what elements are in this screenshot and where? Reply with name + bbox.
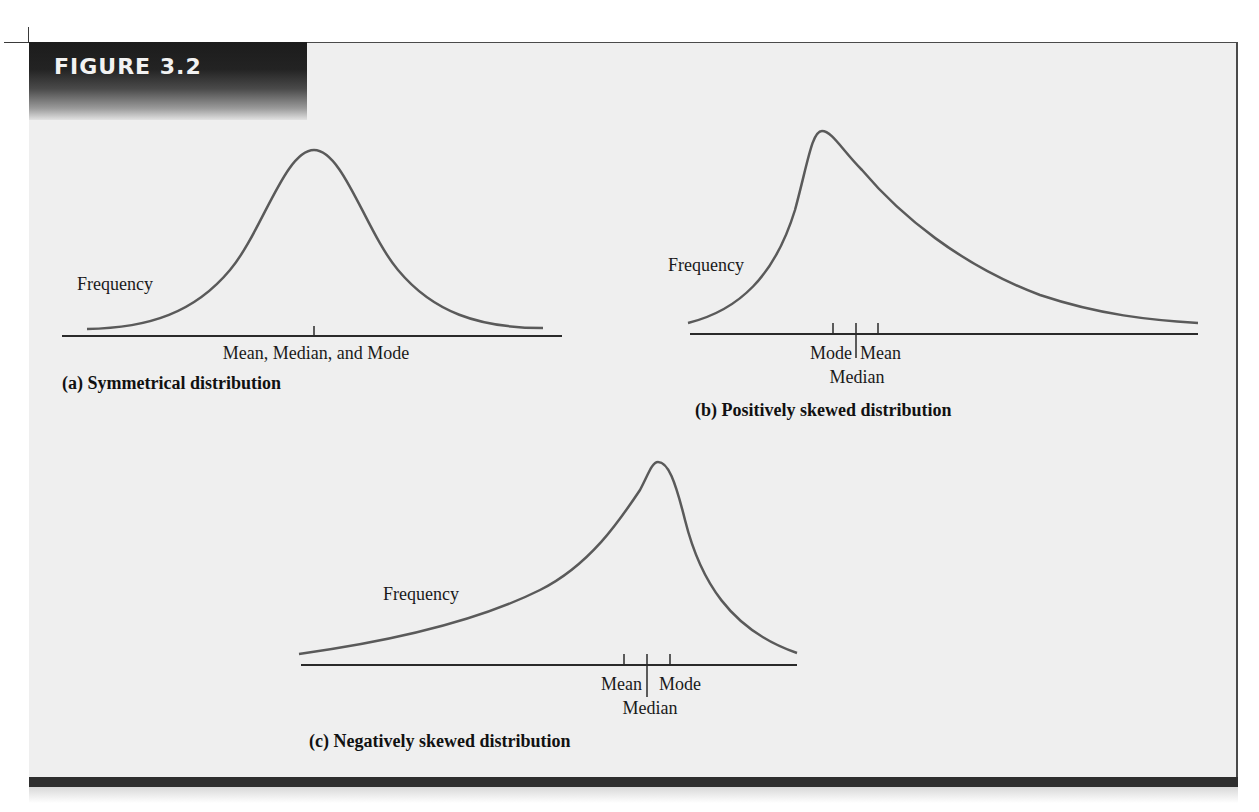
panel-caption: (c) Negatively skewed distribution (309, 731, 570, 752)
marker-label-right: Mean (860, 343, 901, 363)
panel-c: Frequency Mean Mode Median (c) Negativel… (299, 462, 797, 752)
bottom-shadow (29, 787, 1238, 803)
marker-label-right: Mode (659, 674, 701, 694)
panel-caption: (a) Symmetrical distribution (62, 373, 281, 394)
figure-plots: Frequency Mean, Median, and Mode (a) Sym… (0, 0, 1259, 812)
distribution-curve (688, 131, 1198, 323)
marker-label-center: Median (623, 698, 678, 718)
marker-label-left: Mean (601, 674, 642, 694)
distribution-curve (299, 462, 797, 654)
panel-a: Frequency Mean, Median, and Mode (a) Sym… (62, 150, 562, 394)
marker-label-left: Mode (810, 343, 852, 363)
bottom-rule (29, 777, 1238, 787)
panel-b: Frequency Mode Mean Median (b) Positivel… (668, 131, 1198, 421)
marker-label-center: Mean, Median, and Mode (223, 343, 409, 363)
y-axis-label: Frequency (383, 584, 459, 604)
y-axis-label: Frequency (668, 255, 744, 275)
distribution-curve (87, 150, 543, 329)
marker-label-center: Median (830, 367, 885, 387)
panel-caption: (b) Positively skewed distribution (695, 400, 952, 421)
y-axis-label: Frequency (77, 274, 153, 294)
